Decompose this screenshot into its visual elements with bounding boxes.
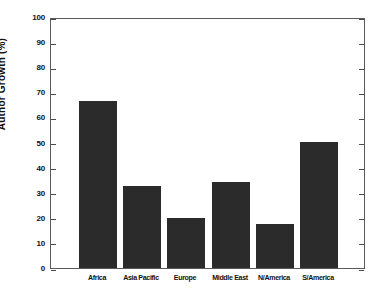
y-axis-tick-label: 80 [20, 63, 45, 72]
bar-chart-figure: Author Growth (%) 0102030405060708090100… [0, 0, 385, 302]
y-axis-tick-label: 0 [20, 264, 45, 273]
bar [79, 101, 117, 268]
bar [212, 182, 250, 268]
y-axis-tick-label: 60 [20, 113, 45, 122]
bar [256, 224, 294, 268]
y-axis-tick-label: 40 [20, 164, 45, 173]
y-axis-tick-label: 10 [20, 239, 45, 248]
bars-layer [51, 19, 364, 268]
y-axis-tick-label: 70 [20, 88, 45, 97]
y-axis-tick-label: 50 [20, 139, 45, 148]
y-axis-tick-label: 20 [20, 214, 45, 223]
y-axis-tick-label: 30 [20, 189, 45, 198]
y-axis-title: Author Growth (%) [0, 24, 7, 144]
bar [300, 142, 338, 268]
y-axis-tick-mark [359, 270, 364, 271]
y-axis-tick-label: 90 [20, 38, 45, 47]
x-axis-category-label: S/America [280, 273, 355, 282]
plot-area [50, 18, 365, 269]
bar [123, 186, 161, 268]
y-axis-tick-label: 100 [20, 13, 45, 22]
y-axis-tick-mark [51, 270, 56, 271]
bar [167, 218, 205, 268]
